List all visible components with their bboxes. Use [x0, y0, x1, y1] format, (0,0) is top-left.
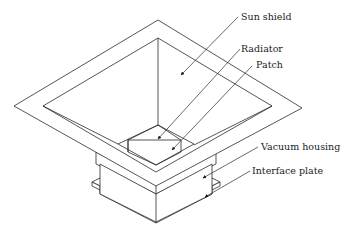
label-patch: Patch: [256, 60, 283, 70]
label-vacuum-housing: Vacuum housing: [261, 142, 340, 152]
radiative-cooler-diagram: [0, 0, 345, 238]
label-sun-shield: Sun shield: [241, 12, 292, 22]
label-interface-plate: Interface plate: [252, 166, 323, 176]
label-radiator: Radiator: [241, 44, 283, 54]
